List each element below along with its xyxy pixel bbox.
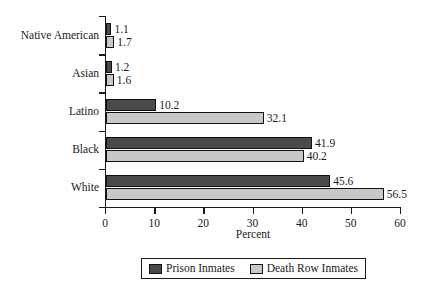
x-axis-title-text: Percent — [236, 228, 270, 240]
y-axis-tick-mark — [99, 54, 105, 55]
bar-value-label: 56.5 — [387, 188, 407, 200]
x-axis-tick-mark — [400, 208, 401, 214]
y-axis-tick-mark — [99, 16, 105, 17]
legend-label: Prison Inmates — [166, 262, 235, 275]
bar-value-label: 1.6 — [117, 74, 131, 86]
legend-swatch — [250, 264, 263, 274]
bar — [106, 175, 330, 187]
legend-entry: Death Row Inmates — [250, 262, 358, 275]
bar — [106, 36, 114, 48]
bar — [106, 150, 304, 162]
bar-value-label: 40.2 — [307, 150, 327, 162]
y-axis-tick-mark — [99, 169, 105, 170]
x-axis-title: Percent — [0, 228, 436, 240]
bar-value-label: 45.6 — [333, 175, 353, 187]
legend-entry: Prison Inmates — [149, 262, 235, 275]
bar-value-label: 1.2 — [115, 61, 129, 73]
x-axis-tick-mark — [253, 208, 254, 214]
bar-chart: Native AmericanAsianLatinoBlackWhite 010… — [0, 0, 436, 294]
x-axis-tick-mark — [154, 208, 155, 214]
bar — [106, 112, 264, 124]
bar — [106, 188, 384, 200]
bar — [106, 61, 112, 73]
x-axis-tick-mark — [302, 208, 303, 214]
bar — [106, 137, 312, 149]
x-axis-tick-mark — [105, 208, 106, 214]
legend-swatch — [149, 264, 162, 274]
legend-label: Death Row Inmates — [267, 262, 358, 275]
bar — [106, 74, 114, 86]
y-axis-category-labels: Native AmericanAsianLatinoBlackWhite — [0, 16, 99, 207]
bar — [106, 23, 111, 35]
y-axis-category-label: White — [0, 181, 99, 194]
y-axis-tick-mark — [99, 92, 105, 93]
y-axis-tick-mark — [99, 131, 105, 132]
legend: Prison InmatesDeath Row Inmates — [141, 258, 366, 279]
x-axis-tick-mark — [203, 208, 204, 214]
x-axis-tick-mark — [351, 208, 352, 214]
bar — [106, 99, 156, 111]
bar-value-label: 1.7 — [117, 36, 131, 48]
y-axis-category-label: Asian — [0, 67, 99, 80]
bar-value-label: 1.1 — [114, 23, 128, 35]
plot-area: 0102030405060 1.11.71.21.610.232.141.940… — [105, 16, 400, 207]
bar-value-label: 32.1 — [267, 112, 287, 124]
bar-value-label: 10.2 — [159, 99, 179, 111]
y-axis-category-label: Black — [0, 143, 99, 156]
bar-value-label: 41.9 — [315, 137, 335, 149]
y-axis-category-label: Latino — [0, 105, 99, 118]
y-axis-category-label: Native American — [0, 29, 99, 42]
